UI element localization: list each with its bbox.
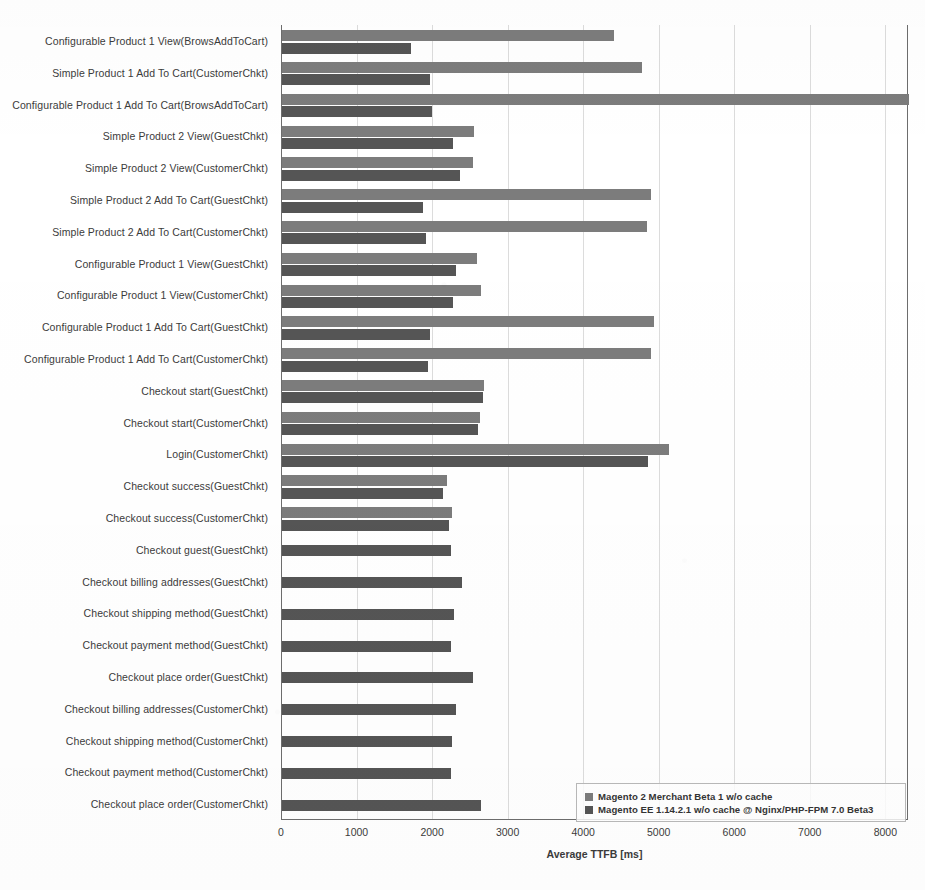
category-label: Login(CustomerChkt) xyxy=(166,448,268,460)
legend-label-series-2: Magento EE 1.14.2.1 w/o cache @ Nginx/PH… xyxy=(598,804,873,815)
x-axis-title: Average TTFB [ms] xyxy=(281,848,908,860)
bar xyxy=(282,138,453,149)
bar xyxy=(282,329,430,340)
bar xyxy=(282,520,449,531)
category-label: Checkout success(GuestChkt) xyxy=(123,480,268,492)
category-label: Checkout billing addresses(GuestChkt) xyxy=(82,576,268,588)
bar xyxy=(282,545,451,556)
bar xyxy=(282,424,478,435)
bar-group xyxy=(282,375,908,407)
bar xyxy=(282,392,483,403)
legend-swatch-series-1 xyxy=(585,793,593,801)
bar xyxy=(282,736,452,747)
bar-group xyxy=(282,502,908,534)
category-label: Checkout payment method(GuestChkt) xyxy=(83,639,268,651)
bar-group xyxy=(282,343,908,375)
category-label: Simple Product 1 Add To Cart(CustomerChk… xyxy=(52,67,268,79)
bar-group xyxy=(282,25,908,57)
bar-group xyxy=(282,629,908,661)
legend-label-series-1: Magento 2 Merchant Beta 1 w/o cache xyxy=(598,791,772,802)
bar-group xyxy=(282,89,908,121)
bar xyxy=(282,189,651,200)
bar-group xyxy=(282,152,908,184)
bar-group xyxy=(282,311,908,343)
legend-swatch-series-2 xyxy=(585,806,593,814)
category-label: Simple Product 2 View(CustomerChkt) xyxy=(85,162,268,174)
category-label: Checkout shipping method(GuestChkt) xyxy=(84,607,268,619)
bar xyxy=(282,202,423,213)
x-tick-label: 4000 xyxy=(571,826,594,838)
bar xyxy=(282,704,456,715)
category-label: Configurable Product 1 View(BrowsAddToCa… xyxy=(45,35,268,47)
bar xyxy=(282,641,451,652)
bar xyxy=(282,577,462,588)
bar xyxy=(282,475,447,486)
category-label: Configurable Product 1 Add To Cart(Guest… xyxy=(42,321,268,333)
horizontal-bar-chart: Configurable Product 1 View(BrowsAddToCa… xyxy=(0,0,925,890)
category-label: Configurable Product 1 View(GuestChkt) xyxy=(75,258,268,270)
bar xyxy=(282,74,430,85)
x-tick-label: 3000 xyxy=(496,826,519,838)
bar xyxy=(282,126,474,137)
bar xyxy=(282,253,477,264)
bar-group xyxy=(282,120,908,152)
bar-group xyxy=(282,693,908,725)
category-label: Configurable Product 1 Add To Cart(Brows… xyxy=(12,99,268,111)
bar-group xyxy=(282,597,908,629)
x-tick-label: 0 xyxy=(278,826,284,838)
category-label: Simple Product 2 Add To Cart(GuestChkt) xyxy=(70,194,268,206)
bar xyxy=(282,157,473,168)
bar xyxy=(282,380,484,391)
bar xyxy=(282,800,481,811)
bar-group xyxy=(282,566,908,598)
x-tick-label: 1000 xyxy=(345,826,368,838)
bar xyxy=(282,94,909,105)
bar-group xyxy=(282,279,908,311)
value-axis-ticks: 010002000300040005000600070008000 xyxy=(0,826,925,848)
x-tick-label: 8000 xyxy=(874,826,897,838)
x-tick-label: 7000 xyxy=(798,826,821,838)
category-label: Checkout success(CustomerChkt) xyxy=(106,512,268,524)
category-label: Checkout place order(GuestChkt) xyxy=(108,671,268,683)
bar xyxy=(282,768,451,779)
x-tick-label: 2000 xyxy=(420,826,443,838)
bar-group xyxy=(282,248,908,280)
category-label: Checkout guest(GuestChkt) xyxy=(136,544,268,556)
bar xyxy=(282,361,428,372)
bar-group xyxy=(282,725,908,757)
bar xyxy=(282,62,642,73)
category-label: Configurable Product 1 Add To Cart(Custo… xyxy=(24,353,268,365)
bar-group xyxy=(282,57,908,89)
bar-group xyxy=(282,661,908,693)
bar xyxy=(282,265,456,276)
bar xyxy=(282,297,453,308)
bar xyxy=(282,507,452,518)
category-label: Simple Product 2 View(GuestChkt) xyxy=(103,130,268,142)
x-tick-label: 6000 xyxy=(723,826,746,838)
bar xyxy=(282,412,480,423)
bar-rows xyxy=(282,25,908,820)
category-axis-labels: Configurable Product 1 View(BrowsAddToCa… xyxy=(0,25,276,820)
bar-group xyxy=(282,407,908,439)
chart-legend: Magento 2 Merchant Beta 1 w/o cache Mage… xyxy=(576,783,906,822)
bar xyxy=(282,348,651,359)
category-label: Checkout start(GuestChkt) xyxy=(141,385,268,397)
category-label: Checkout billing addresses(CustomerChkt) xyxy=(64,703,268,715)
category-label: Configurable Product 1 View(CustomerChkt… xyxy=(57,289,268,301)
category-label: Checkout place order(CustomerChkt) xyxy=(91,798,268,810)
bar xyxy=(282,30,614,41)
bar xyxy=(282,106,432,117)
bar-group xyxy=(282,534,908,566)
bar-group xyxy=(282,216,908,248)
legend-item: Magento EE 1.14.2.1 w/o cache @ Nginx/PH… xyxy=(585,803,897,816)
bar xyxy=(282,170,460,181)
bar xyxy=(282,43,411,54)
x-tick-label: 5000 xyxy=(647,826,670,838)
category-label: Simple Product 2 Add To Cart(CustomerChk… xyxy=(52,226,268,238)
bar-group xyxy=(282,438,908,470)
bar-group xyxy=(282,184,908,216)
bar xyxy=(282,456,648,467)
category-label: Checkout payment method(CustomerChkt) xyxy=(65,766,268,778)
category-label: Checkout shipping method(CustomerChkt) xyxy=(66,735,268,747)
bar xyxy=(282,609,454,620)
